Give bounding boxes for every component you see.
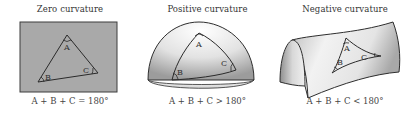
vertex-label-c: C	[361, 53, 367, 62]
vertex-label-a: A	[195, 40, 202, 49]
dome-base	[148, 80, 254, 88]
panel-caption: A + B + C < 180°	[275, 96, 415, 106]
panel-positive-curvature: Positive curvature A B C A + B + C > 180…	[140, 0, 275, 116]
saddle-surface	[292, 22, 400, 98]
vertex-label-b: B	[177, 68, 183, 77]
vertex-label-a: A	[343, 44, 350, 53]
dome-surface	[148, 22, 254, 80]
vertex-label-c: C	[83, 66, 89, 75]
panel-negative-curvature: Negative curvature A B C A +	[275, 0, 415, 116]
panel-zero-curvature: Zero curvature A B C A + B + C = 180°	[0, 0, 140, 116]
vertex-label-c: C	[221, 59, 227, 68]
vertex-label-b: B	[45, 73, 51, 82]
panel-caption: A + B + C = 180°	[0, 96, 140, 106]
vertex-label-b: B	[337, 58, 343, 67]
flat-plane	[20, 22, 117, 92]
panel-caption: A + B + C > 180°	[140, 96, 275, 106]
vertex-label-a: A	[63, 43, 70, 52]
